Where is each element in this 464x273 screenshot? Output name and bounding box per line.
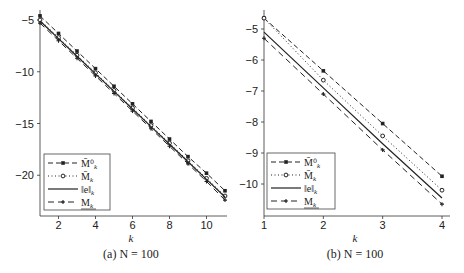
y-tick-label: −6 — [245, 54, 258, 66]
square-marker — [38, 14, 42, 18]
x-tick-label: 1 — [261, 219, 267, 231]
x-tick-label: 10 — [200, 219, 212, 231]
square-marker — [75, 49, 79, 53]
square-marker — [94, 67, 98, 71]
panel-a-x-ticks: 246810 — [55, 216, 212, 231]
diamond-marker — [61, 174, 65, 178]
panel-b-y-ticks: −5−6−7−8−9−10 — [239, 23, 264, 190]
diamond-marker — [262, 16, 266, 20]
panel-a-x-label: k — [129, 232, 135, 244]
square-marker — [57, 32, 61, 36]
chart-figure: −5−10−15−20 246810 k (a) N = 100 M̄⁰kM̄k… — [0, 0, 464, 273]
y-tick-label: −10 — [239, 178, 258, 190]
diamond-marker — [321, 78, 325, 82]
y-tick-label: −20 — [15, 169, 34, 181]
panel-a-caption: (a) N = 100 — [103, 247, 159, 261]
square-marker — [381, 122, 385, 126]
y-tick-label: −7 — [245, 85, 258, 97]
square-marker — [168, 137, 172, 141]
x-tick-label: 4 — [92, 219, 98, 231]
panel-a-y-ticks: −5−10−15−20 — [15, 14, 40, 181]
x-tick-label: 3 — [380, 219, 386, 231]
legend-box — [267, 153, 335, 209]
square-marker — [440, 174, 444, 178]
square-marker — [205, 171, 209, 175]
y-tick-label: −15 — [15, 118, 34, 130]
square-marker — [112, 84, 116, 88]
panel-b-caption: (b) N = 100 — [327, 247, 383, 261]
y-tick-label: −5 — [245, 23, 258, 35]
panel-b-x-ticks: 1234 — [261, 216, 445, 231]
x-tick-label: 2 — [320, 219, 326, 231]
x-tick-label: 8 — [166, 219, 172, 231]
diamond-marker — [440, 188, 444, 192]
panel-b-x-label: k — [353, 232, 359, 244]
panel-b: −5−6−7−8−9−10 1234 k (b) N = 100 M̄⁰kM̄k… — [239, 10, 450, 261]
square-marker — [322, 69, 326, 73]
diamond-marker — [381, 134, 385, 138]
diamond-marker — [284, 173, 288, 177]
y-tick-label: −8 — [245, 116, 258, 128]
panel-a-legend: M̄⁰kM̄k‖e‖kMk — [44, 154, 110, 210]
panel-a: −5−10−15−20 246810 k (a) N = 100 M̄⁰kM̄k… — [15, 10, 227, 261]
y-tick-label: −10 — [15, 66, 34, 78]
x-tick-label: 4 — [439, 219, 445, 231]
x-tick-label: 2 — [55, 219, 61, 231]
square-marker — [223, 189, 227, 193]
y-tick-label: −5 — [21, 14, 34, 26]
y-tick-label: −9 — [245, 147, 258, 159]
x-tick-label: 6 — [129, 219, 135, 231]
square-marker — [186, 155, 190, 159]
square-marker — [284, 160, 288, 164]
square-marker — [131, 102, 135, 106]
square-marker — [149, 120, 153, 124]
panel-b-legend: M̄⁰kM̄k‖e‖kMk — [267, 153, 335, 209]
series-line — [264, 18, 442, 176]
square-marker — [61, 161, 65, 165]
